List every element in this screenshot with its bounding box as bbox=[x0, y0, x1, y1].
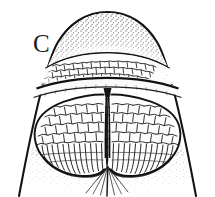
figure-panel: C bbox=[0, 0, 215, 197]
panel-label: C bbox=[33, 31, 50, 56]
